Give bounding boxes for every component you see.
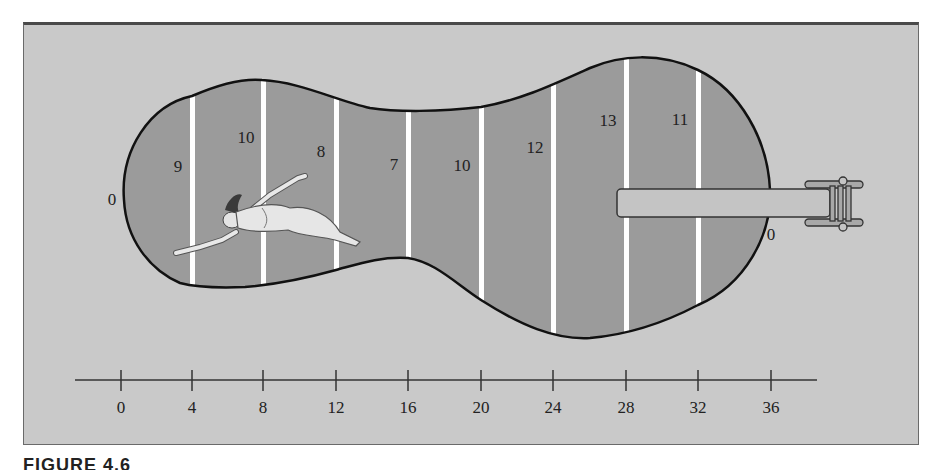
diving-board-icon	[617, 189, 830, 217]
axis-tick-label: 24	[545, 398, 562, 418]
depth-label-9: 0	[767, 225, 776, 245]
depth-label-0: 0	[108, 190, 117, 210]
depth-label-3: 8	[317, 142, 326, 162]
axis-tick-label: 4	[188, 398, 197, 418]
x-axis	[75, 370, 817, 391]
depth-label-6: 12	[527, 138, 544, 158]
axis-tick-label: 36	[763, 398, 780, 418]
axis-tick-label: 32	[690, 398, 707, 418]
axis-tick-label: 0	[117, 398, 126, 418]
depth-label-5: 10	[454, 156, 471, 176]
depth-label-1: 9	[174, 157, 183, 177]
axis-tick-label: 20	[473, 398, 490, 418]
depth-label-8: 11	[672, 110, 688, 130]
axis-tick-label: 12	[328, 398, 345, 418]
depth-label-7: 13	[600, 111, 617, 131]
axis-tick-label: 8	[259, 398, 268, 418]
depth-label-2: 10	[238, 128, 255, 148]
axis-tick-label: 28	[618, 398, 635, 418]
depth-label-4: 7	[390, 155, 399, 175]
axis-tick-label: 16	[400, 398, 417, 418]
pool-diagram	[0, 0, 940, 470]
figure-caption: FIGURE 4.6	[23, 455, 131, 470]
